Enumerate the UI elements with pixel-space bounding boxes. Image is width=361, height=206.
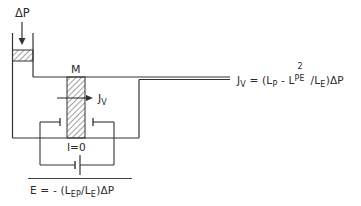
eq-minus: - L (277, 74, 294, 86)
eq2-tail: )ΔP (96, 184, 114, 196)
eq2-slash: /L (81, 184, 91, 196)
eq-open: = (L (246, 74, 272, 86)
eq-lpe-supsub: 2PE (295, 72, 311, 84)
eq-lpe-sup: 2 (298, 63, 303, 71)
pressure-arrow-icon (19, 22, 26, 45)
diagram-canvas (0, 0, 361, 206)
pressure-label: ΔP (15, 8, 30, 20)
eq-le-sub: E (320, 80, 325, 89)
eq2-lep-sub: EP (71, 190, 81, 199)
battery-icon (75, 155, 80, 175)
piston (13, 50, 34, 61)
eq2-lhs: E = - (L (30, 184, 71, 196)
flux-label: JV (98, 93, 107, 104)
flux-label-sub: V (101, 98, 106, 107)
potential-equation: E = - (LEP/LE)ΔP (30, 185, 114, 196)
eq-jv-sub: V (240, 80, 246, 89)
eq-lp-sub: P (272, 80, 277, 89)
flux-equation: JV = (LP - L2PE/LE)ΔP (237, 72, 344, 86)
eq-slash: /L (311, 74, 321, 86)
membrane (67, 77, 85, 138)
membrane-label: M (71, 64, 81, 75)
eq2-le-sub: E (91, 190, 96, 199)
eq-lpe-sub: PE (295, 75, 305, 83)
eq-tail: )ΔP (326, 74, 344, 86)
current-label: I=0 (67, 142, 86, 153)
